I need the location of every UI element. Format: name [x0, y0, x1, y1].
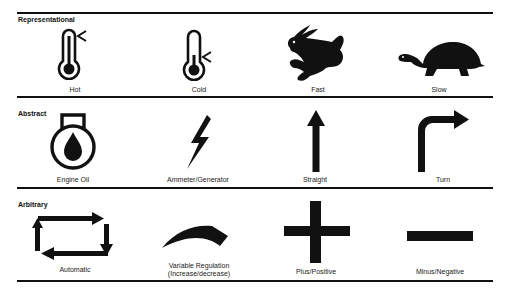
label-cold: Cold [134, 86, 264, 94]
plus-icon [284, 201, 350, 267]
label-plus-positive: Plus/Positive [251, 268, 381, 276]
bottom-divider [17, 280, 493, 282]
section-divider-2 [17, 187, 493, 189]
label-straight: Straight [250, 176, 380, 184]
label-ammeter-generator: Ammeter/Generator [133, 176, 263, 184]
label-variable-regulation-line1: Variable Regulation [134, 262, 264, 270]
section-title-abstract: Abstract [18, 110, 46, 117]
label-fast: Fast [253, 86, 383, 94]
lightning-bolt-icon [185, 115, 211, 173]
section-divider-1 [17, 96, 493, 98]
cycle-arrows-icon [32, 212, 118, 266]
rabbit-icon [280, 22, 354, 88]
thermometer-cold-icon [182, 29, 216, 85]
section-title-representational: Representational [18, 16, 75, 23]
section-title-arbitrary: Arbitrary [18, 201, 48, 208]
thermometer-hot-icon [57, 28, 91, 84]
label-hot: Hot [10, 86, 140, 94]
minus-icon [407, 227, 473, 245]
oil-drop-icon [45, 112, 101, 174]
wedge-arc-icon [162, 222, 230, 254]
turtle-icon [395, 40, 485, 84]
label-slow: Slow [374, 86, 504, 94]
arrow-turn-right-icon [417, 110, 471, 176]
label-automatic: Automatic [10, 266, 140, 274]
label-turn: Turn [378, 176, 507, 184]
arrow-up-icon [306, 110, 326, 176]
label-variable-regulation-line2: (Increase/decrease) [134, 270, 264, 278]
label-engine-oil: Engine Oil [8, 176, 138, 184]
top-divider [17, 12, 493, 14]
label-minus-negative: Minus/Negative [375, 268, 505, 276]
